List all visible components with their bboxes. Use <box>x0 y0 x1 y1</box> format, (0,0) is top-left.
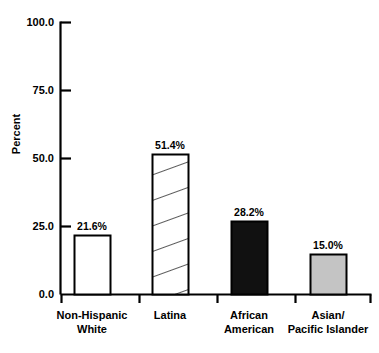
x-axis-ticks <box>62 295 371 304</box>
category-label-line2: Pacific Islander <box>275 323 379 337</box>
y-tick-label-100: 100.0 <box>8 17 54 28</box>
bar-african-american <box>232 222 268 295</box>
y-axis-ticks <box>61 23 72 227</box>
bar-non-hispanic-white <box>75 236 111 295</box>
bar-chart: Percent 100.0 75.0 50.0 25.0 0.0 21.6% 5… <box>0 0 379 353</box>
bar-latina <box>153 155 189 295</box>
bar-value-label-latina: 51.4% <box>140 140 200 151</box>
y-tick-label-50: 50.0 <box>8 153 54 164</box>
category-label-line2: White <box>39 323 145 337</box>
y-tick-label-0: 0.0 <box>8 289 54 300</box>
category-label-asian-pacific-islander: Asian/ Pacific Islander <box>275 309 379 336</box>
y-tick-label-75: 75.0 <box>8 85 54 96</box>
bar-value-label-asian-pacific-islander: 15.0% <box>298 240 358 251</box>
bar-asian-pacific-islander <box>311 255 347 295</box>
bar-value-label-non-hispanic-white: 21.6% <box>62 221 122 232</box>
y-tick-label-25: 25.0 <box>8 221 54 232</box>
plot-area <box>0 0 379 353</box>
category-label-line1: Asian/ <box>275 309 379 323</box>
bar-value-label-african-american: 28.2% <box>219 207 279 218</box>
